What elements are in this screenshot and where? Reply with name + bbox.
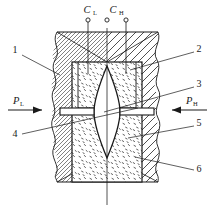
callout-4: 4: [13, 128, 18, 139]
port-label-cl: C L: [83, 4, 97, 16]
pressure-label-ph: P H: [185, 95, 198, 107]
callout-6: 6: [197, 163, 202, 174]
port-circle-left: [86, 18, 90, 22]
pressure-arrow-left: [8, 107, 42, 114]
callout-3: 3: [197, 78, 202, 89]
port-circle-right: [124, 18, 128, 22]
port-label-cl-main: C: [83, 4, 91, 15]
port-label-ch-main: C: [109, 4, 117, 15]
pressure-label-ph-main: P: [185, 95, 193, 106]
callout-1: 1: [13, 44, 18, 55]
callout-5: 5: [197, 117, 202, 128]
port-circle-center: [105, 18, 109, 22]
pressure-label-pl-sub: L: [20, 100, 24, 107]
callout-2: 2: [197, 43, 202, 54]
pressure-arrow-right: [172, 107, 207, 114]
port-label-cl-sub: L: [93, 9, 97, 16]
cross-section-diagram: C L C H P L P H 1 2 3 4 5 6: [0, 0, 215, 214]
pressure-label-ph-sub: H: [193, 100, 198, 107]
pressure-label-pl-main: P: [12, 95, 20, 106]
port-label-ch-sub: H: [119, 9, 124, 16]
figure-container: C L C H P L P H 1 2 3 4 5 6: [0, 0, 215, 214]
port-label-ch: C H: [109, 4, 124, 16]
pressure-label-pl: P L: [12, 95, 24, 107]
